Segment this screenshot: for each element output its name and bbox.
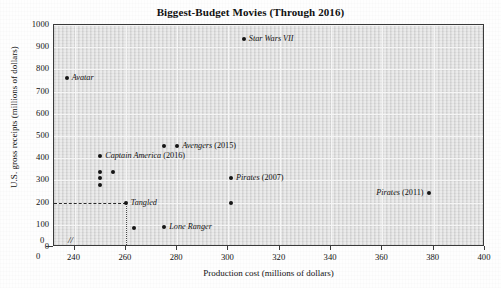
x-tick-label: 340 [324,252,337,262]
x-tick-label: 280 [170,252,183,262]
y-axis-zero-tick: 0 [40,235,44,245]
chart-figure: Biggest-Budget Movies (Through 2016) Ava… [0,0,501,288]
x-axis-origin-segment [46,246,53,247]
y-axis-ticks: 01002003004005006007008009001000 [0,0,501,288]
x-tick-mark [279,246,280,250]
x-tick-mark [125,246,126,250]
x-tick-mark [176,246,177,250]
axis-break-icon: // [68,235,73,245]
x-tick-label: 260 [118,252,131,262]
y-axis-title: U.S. gross receipts (millions of dollars… [9,7,19,227]
x-axis-title: Production cost (millions of dollars) [53,268,484,278]
x-tick-mark [74,246,75,250]
x-tick-mark [433,246,434,250]
x-tick-label: 320 [272,252,285,262]
x-tick-mark [484,246,485,250]
x-tick-mark [381,246,382,250]
x-tick-label: 380 [426,252,439,262]
x-tick-mark [330,246,331,250]
x-axis-origin-label: 0 [36,251,40,261]
x-tick-label: 240 [67,252,80,262]
x-tick-label: 400 [478,252,491,262]
x-tick-mark [227,246,228,250]
x-tick-label: 300 [221,252,234,262]
x-tick-label: 360 [375,252,388,262]
